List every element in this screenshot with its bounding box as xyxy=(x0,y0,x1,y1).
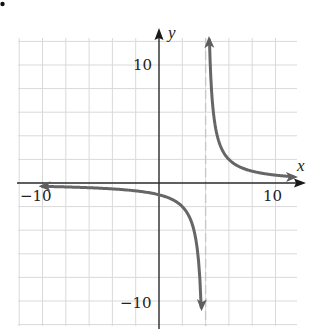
function-graph: −10 10 10 −10 x y xyxy=(0,0,311,329)
curve-left-branch xyxy=(43,186,202,307)
y-tick-label-10: 10 xyxy=(133,56,152,74)
grid xyxy=(18,38,297,326)
x-tick-label-10: 10 xyxy=(263,187,282,205)
curve-right-branch xyxy=(209,40,293,177)
y-axis-label: y xyxy=(166,23,176,42)
y-tick-label-neg10: −10 xyxy=(120,294,152,312)
curves xyxy=(39,36,298,312)
bullet-marker xyxy=(0,2,4,6)
axes xyxy=(17,28,306,329)
x-axis-label: x xyxy=(296,156,305,175)
x-tick-label-neg10: −10 xyxy=(20,187,52,205)
